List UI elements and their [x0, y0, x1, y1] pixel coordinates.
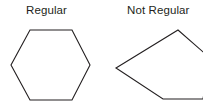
diagram-canvas: Regular Not Regular [0, 0, 203, 108]
irregular-polygon-shape [116, 30, 203, 99]
not-regular-label: Not Regular [127, 4, 189, 17]
regular-label: Regular [26, 4, 67, 17]
regular-hexagon-shape [11, 30, 90, 100]
